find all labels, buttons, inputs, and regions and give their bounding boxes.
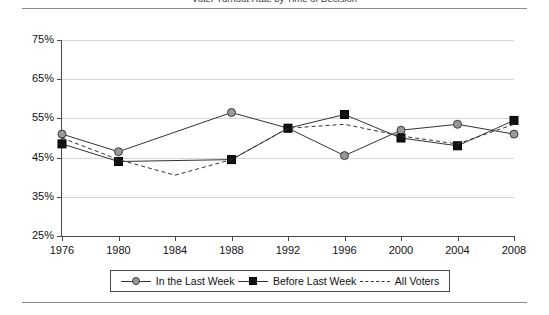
legend-entry[interactable]: In the Last Week	[121, 275, 235, 287]
x-tick	[62, 236, 63, 241]
x-tick-label: 1996	[322, 244, 368, 256]
figure-rule-bottom	[22, 302, 527, 303]
dashed-line-icon	[360, 281, 390, 282]
x-tick-label: 1988	[209, 244, 255, 256]
x-tick-label: 1976	[39, 244, 85, 256]
y-tick-label: 75%	[18, 33, 54, 45]
circle-marker	[228, 109, 236, 117]
x-tick-label: 1980	[96, 244, 142, 256]
x-tick	[345, 236, 346, 241]
circle-marker	[454, 120, 462, 128]
legend-entry[interactable]: Before Last Week	[238, 275, 356, 287]
figure-caption-clipped: Voter Turnout Rate by Time of Decision	[22, 0, 527, 7]
figure-caption-text: Voter Turnout Rate by Time of Decision	[22, 0, 527, 4]
legend-entry[interactable]: All Voters	[360, 275, 439, 287]
series-line	[62, 115, 514, 162]
circle-marker	[58, 130, 66, 138]
x-tick	[458, 236, 459, 241]
y-tick-label: 25%	[18, 229, 54, 241]
circle-marker	[397, 126, 405, 134]
series-line	[62, 113, 514, 156]
figure-container: Voter Turnout Rate by Time of Decision 2…	[0, 0, 549, 315]
x-tick	[232, 236, 233, 241]
y-tick-label: 65%	[18, 72, 54, 84]
legend-swatch	[121, 276, 151, 286]
legend-label: Before Last Week	[273, 275, 356, 287]
figure-rule-top	[22, 8, 527, 9]
legend-label: All Voters	[395, 275, 439, 287]
x-tick	[119, 236, 120, 241]
square-marker	[58, 140, 66, 148]
square-marker	[249, 277, 257, 285]
circle-marker	[510, 130, 518, 138]
circle-marker	[341, 152, 349, 160]
legend-swatch	[360, 276, 390, 286]
series-layer	[62, 40, 514, 236]
chart-plot-area	[62, 40, 514, 236]
legend-label: In the Last Week	[156, 275, 235, 287]
x-tick	[514, 236, 515, 241]
y-tick-label: 55%	[18, 111, 54, 123]
circle-marker	[132, 277, 140, 285]
circle-marker	[115, 148, 123, 156]
square-marker	[341, 111, 349, 119]
square-marker	[510, 116, 518, 124]
x-tick-label: 2004	[435, 244, 481, 256]
x-tick	[401, 236, 402, 241]
y-tick-label: 35%	[18, 190, 54, 202]
x-tick	[175, 236, 176, 241]
legend-swatch	[238, 276, 268, 286]
x-tick-label: 1992	[265, 244, 311, 256]
x-tick	[288, 236, 289, 241]
x-tick-label: 1984	[152, 244, 198, 256]
x-tick-label: 2008	[491, 244, 537, 256]
y-tick-label: 45%	[18, 151, 54, 163]
chart-legend: In the Last WeekBefore Last WeekAll Vote…	[110, 270, 450, 292]
x-tick-label: 2000	[378, 244, 424, 256]
